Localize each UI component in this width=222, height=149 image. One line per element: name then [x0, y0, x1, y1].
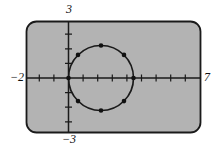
data-point — [76, 99, 81, 104]
data-point — [99, 108, 104, 113]
y-max-label: 3 — [57, 3, 81, 15]
plot-area-background — [27, 22, 201, 133]
data-point — [99, 43, 104, 48]
data-point — [122, 99, 127, 104]
x-max-label: 7 — [204, 71, 220, 83]
data-point — [131, 76, 136, 81]
data-point — [122, 53, 127, 58]
data-point — [66, 76, 71, 81]
x-min-label: −2 — [2, 71, 24, 83]
graph-figure: 3 −3 −2 7 — [0, 0, 222, 149]
y-min-label: −3 — [54, 133, 84, 145]
data-point — [76, 53, 81, 58]
plot-canvas — [0, 0, 222, 149]
